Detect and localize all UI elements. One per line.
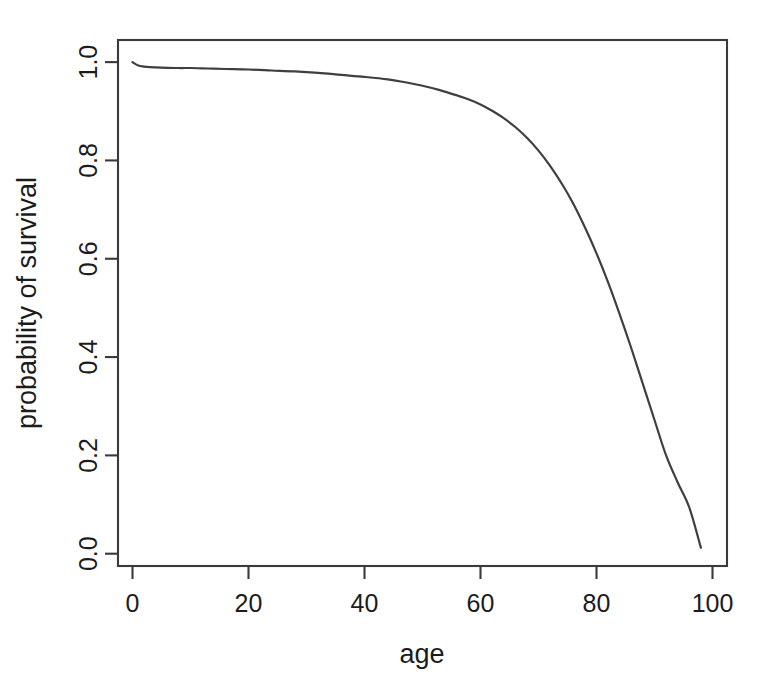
y-tick-label: 0.2	[74, 438, 102, 473]
y-tick-label: 0.8	[74, 143, 102, 178]
x-axis-ticks	[133, 566, 713, 579]
x-tick-label: 0	[126, 589, 140, 617]
survival-curve-figure: 0.00.20.40.60.81.0 020406080100 age prob…	[0, 0, 775, 694]
x-tick-label: 60	[467, 589, 495, 617]
x-tick-label: 80	[583, 589, 611, 617]
y-tick-label: 0.4	[74, 340, 102, 375]
y-tick-label: 0.0	[74, 536, 102, 571]
x-tick-label: 40	[351, 589, 379, 617]
plot-frame	[118, 40, 727, 566]
survival-probability-curve	[133, 62, 701, 548]
y-axis-tick-labels: 0.00.20.40.60.81.0	[74, 45, 102, 571]
x-axis-title: age	[399, 639, 444, 669]
y-tick-label: 0.6	[74, 241, 102, 276]
y-axis-ticks	[105, 62, 118, 554]
x-tick-label: 20	[235, 589, 263, 617]
x-axis-tick-labels: 020406080100	[126, 589, 734, 617]
x-tick-label: 100	[692, 589, 734, 617]
y-axis-title: probability of survival	[12, 177, 42, 429]
y-tick-label: 1.0	[74, 45, 102, 80]
plot-canvas: 0.00.20.40.60.81.0 020406080100 age prob…	[0, 0, 775, 694]
